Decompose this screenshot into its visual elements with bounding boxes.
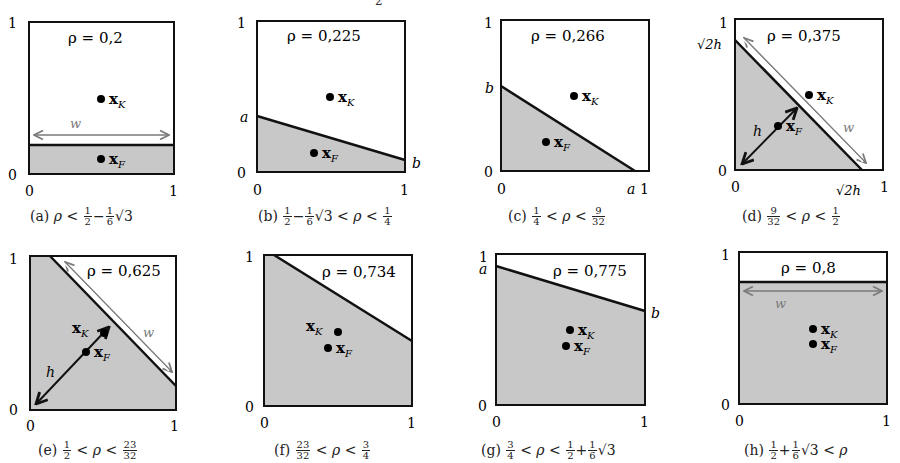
point-f xyxy=(97,155,105,163)
rho-label: ρ = 0,734 xyxy=(322,263,396,281)
panel-h: w ρ = 0,8 xK xF 1 0 0 1 xyxy=(721,247,891,429)
rho-symbol: ρ xyxy=(536,442,544,458)
caption-e: (e) 12 < ρ < 2332 xyxy=(38,440,138,461)
label-sqrt2h-y: √2h xyxy=(697,37,722,52)
fraction-half: 12 xyxy=(832,206,840,227)
point-k xyxy=(334,328,342,336)
fraction-half: 12 xyxy=(283,206,291,227)
figure-canvas: w ρ = 0,2 xK xF 1 0 0 1 ρ = 0,225 xK xF … xyxy=(0,0,900,463)
caption-label: (h) xyxy=(744,442,764,458)
lt-symbol: < xyxy=(546,208,558,224)
rho-label: ρ = 0,775 xyxy=(553,262,627,280)
y-tick-0: 0 xyxy=(9,402,18,418)
caption-b: (b) 12−16√3 < ρ < 14 xyxy=(258,206,393,227)
lt-symbol: < xyxy=(66,208,78,224)
caption-c: (c) 14 < ρ < 932 xyxy=(508,206,606,227)
point-f xyxy=(809,340,817,348)
label-w: w xyxy=(70,116,81,131)
fraction-three-quarters: 34 xyxy=(362,440,370,461)
fraction-half: 12 xyxy=(63,440,71,461)
y-tick-0: 0 xyxy=(8,167,17,183)
sqrt3: √3 xyxy=(598,442,616,458)
x-tick-1: 1 xyxy=(640,181,649,197)
label-h: h xyxy=(46,364,55,380)
label-w: w xyxy=(143,325,154,340)
y-tick-0: 0 xyxy=(478,398,487,414)
panel-b: ρ = 0,225 xK xF a b 1 0 0 1 xyxy=(237,15,421,198)
fraction-sixth: 16 xyxy=(588,440,596,461)
fraction-sixth: 16 xyxy=(305,206,313,227)
label-b: b xyxy=(485,80,494,96)
label-a: a xyxy=(627,181,635,197)
label-sqrt2h-x: √2h xyxy=(836,183,861,198)
sqrt3: √3 xyxy=(801,442,819,458)
x-tick-1: 1 xyxy=(880,179,889,195)
x-tick-0: 0 xyxy=(260,415,269,431)
panel-e: w h ρ = 0,625 xK xF 1 0 0 1 xyxy=(9,251,179,434)
point-k xyxy=(566,326,574,334)
minus-symbol: − xyxy=(293,208,305,224)
point-k-label: xK xyxy=(817,86,834,106)
rho-symbol: ρ xyxy=(562,208,570,224)
fraction-23-32: 2332 xyxy=(296,440,311,461)
rho-symbol: ρ xyxy=(353,208,361,224)
point-k xyxy=(326,93,334,101)
label-b: b xyxy=(412,155,421,171)
point-k xyxy=(100,329,108,337)
lt-symbol: < xyxy=(786,208,798,224)
caption-label: (c) xyxy=(508,208,527,224)
y-tick-1: 1 xyxy=(8,15,17,31)
point-f xyxy=(562,342,570,350)
lt-symbol: < xyxy=(549,442,561,458)
y-tick-0: 0 xyxy=(484,164,493,180)
x-tick-1: 1 xyxy=(170,418,179,434)
point-f xyxy=(310,149,318,157)
rho-label: ρ = 0,8 xyxy=(781,259,836,277)
label-a: a xyxy=(240,109,248,125)
x-tick-0: 0 xyxy=(735,413,744,429)
label-h: h xyxy=(753,123,762,139)
figure: 2 w ρ = 0,2 xK xF 1 0 0 1 ρ = 0,225 xK x… xyxy=(0,0,900,463)
cut-off-text: 2 xyxy=(375,0,383,8)
fraction-quarter: 14 xyxy=(383,206,391,227)
point-k-label: xK xyxy=(582,87,599,107)
y-tick-1: 1 xyxy=(719,15,728,31)
point-k xyxy=(805,91,813,99)
caption-label: (b) xyxy=(258,208,278,224)
point-k xyxy=(570,92,578,100)
rho-symbol: ρ xyxy=(332,442,340,458)
panel-d: w h ρ = 0,375 xK xF √2h √2h 1 0 0 1 xyxy=(697,15,889,198)
point-f xyxy=(774,122,782,130)
panel-f: ρ = 0,734 xK xF 1 0 0 1 xyxy=(245,249,416,431)
sqrt3: √3 xyxy=(115,208,133,224)
lt-symbol: < xyxy=(316,442,328,458)
point-f xyxy=(542,138,550,146)
label-w: w xyxy=(775,296,786,311)
x-tick-1: 1 xyxy=(407,415,416,431)
fraction-half: 12 xyxy=(566,440,574,461)
plus-symbol: + xyxy=(779,442,791,458)
x-tick-1: 1 xyxy=(882,413,891,429)
caption-label: (f) xyxy=(274,442,290,458)
lt-symbol: < xyxy=(520,442,532,458)
caption-label: (d) xyxy=(742,208,762,224)
fraction-9-32: 932 xyxy=(592,206,605,227)
point-f xyxy=(82,348,90,356)
y-tick-1: 1 xyxy=(9,251,18,267)
y-tick-1: 1 xyxy=(721,247,730,263)
panel-g: ρ = 0,775 xK xF a b 1 0 0 1 xyxy=(478,249,660,430)
feasible-region xyxy=(496,266,645,405)
plus-symbol: + xyxy=(576,442,588,458)
y-tick-0: 0 xyxy=(718,163,727,179)
rho-symbol: ρ xyxy=(802,208,810,224)
x-tick-0: 0 xyxy=(731,179,740,195)
fraction-9-32: 932 xyxy=(767,206,780,227)
lt-symbol: < xyxy=(823,442,835,458)
point-k-label: xK xyxy=(338,88,355,108)
lt-symbol: < xyxy=(77,442,89,458)
label-b: b xyxy=(651,305,660,321)
caption-label: (a) xyxy=(30,208,49,224)
y-tick-0: 0 xyxy=(237,165,246,181)
label-w: w xyxy=(843,120,854,135)
rho-label: ρ = 0,2 xyxy=(68,29,123,47)
